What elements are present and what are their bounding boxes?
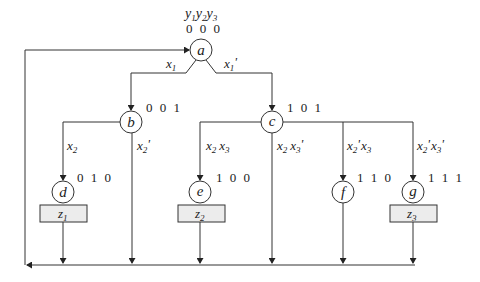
cond-a-to-c: x1' bbox=[223, 54, 237, 73]
edges-from-c bbox=[200, 122, 413, 263]
node-c: c 1 0 1 bbox=[261, 100, 323, 133]
node-b-code: 0 0 1 bbox=[146, 100, 182, 115]
cond-a-to-b: x1 bbox=[165, 56, 176, 73]
cond-c-to-f: x2'x3 bbox=[346, 136, 372, 155]
output-z3: z3 bbox=[390, 205, 437, 223]
svg-text:b: b bbox=[127, 114, 135, 130]
edges-to-return bbox=[63, 202, 413, 263]
output-z1: z1 bbox=[40, 205, 87, 223]
node-f: f 1 1 0 bbox=[332, 170, 393, 203]
node-d-code: 0 1 0 bbox=[77, 170, 113, 185]
state-diagram: y1y2y3 a 0 0 0 b 0 0 1 c 1 0 1 d 0 1 0 z… bbox=[0, 0, 480, 282]
svg-text:a: a bbox=[197, 42, 205, 58]
svg-text:d: d bbox=[59, 184, 67, 200]
node-f-code: 1 1 0 bbox=[357, 170, 393, 185]
svg-text:c: c bbox=[269, 113, 276, 129]
node-a: a 0 0 0 bbox=[186, 21, 222, 61]
feedback-loop bbox=[25, 50, 415, 265]
node-e-code: 1 0 0 bbox=[216, 170, 252, 185]
cond-b-down: x2' bbox=[136, 136, 150, 155]
node-c-code: 1 0 1 bbox=[287, 100, 323, 115]
svg-text:e: e bbox=[197, 183, 204, 199]
cond-c-to-e: x2x3 bbox=[205, 138, 230, 155]
output-z2: z2 bbox=[178, 205, 225, 223]
node-a-code: 0 0 0 bbox=[186, 21, 222, 36]
svg-text:g: g bbox=[409, 183, 417, 199]
cond-c-down: x2x3' bbox=[276, 136, 304, 155]
node-e: e 1 0 0 bbox=[189, 170, 252, 203]
node-g: g 1 1 1 bbox=[402, 170, 464, 203]
cond-c-to-g: x2'x3' bbox=[416, 136, 444, 155]
cond-b-to-d: x2 bbox=[66, 138, 78, 155]
node-b: b 0 0 1 bbox=[120, 100, 182, 133]
node-g-code: 1 1 1 bbox=[428, 170, 464, 185]
node-d: d 0 1 0 bbox=[52, 170, 113, 203]
